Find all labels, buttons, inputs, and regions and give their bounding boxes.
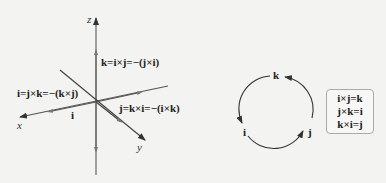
- unit-vector-i-label: i: [71, 110, 74, 121]
- i-equation: i=j×k=−(k×j): [17, 88, 78, 99]
- rule-ki: k×i=j: [337, 118, 362, 131]
- cycle-node-k: k: [273, 70, 279, 81]
- rule-jk: j×k=i: [337, 105, 362, 118]
- k-equation: k=i×j=−(j×i): [101, 57, 159, 68]
- j-equation: j=k×i=−(i×k): [119, 103, 180, 114]
- x-axis-label: x: [17, 120, 22, 131]
- cycle-node-j: j: [308, 127, 312, 138]
- rule-ij: i×j=k: [337, 92, 362, 105]
- y-axis-label: y: [137, 142, 142, 153]
- cycle-diagram: [239, 76, 313, 149]
- z-axis-label: z: [87, 14, 91, 25]
- cycle-node-i: i: [243, 127, 246, 138]
- cross-product-rules-box: i×j=k j×k=i k×i=j: [326, 89, 374, 134]
